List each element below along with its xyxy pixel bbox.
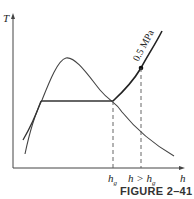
figure-caption: FIGURE 2–41 xyxy=(120,185,192,197)
y-axis-arrow-icon xyxy=(11,13,15,19)
x-axis-arrow-icon xyxy=(179,166,185,170)
tick-label-h-main: h > h xyxy=(128,172,152,184)
compressed-liquid-line xyxy=(23,101,41,140)
tick-label-hg-sub: g xyxy=(114,179,118,187)
x-axis-label: h xyxy=(180,173,186,184)
tick-label-hg: hg xyxy=(108,173,117,187)
saturation-dome xyxy=(25,58,174,156)
y-axis-label: T xyxy=(3,13,9,24)
t-h-diagram xyxy=(0,0,194,199)
